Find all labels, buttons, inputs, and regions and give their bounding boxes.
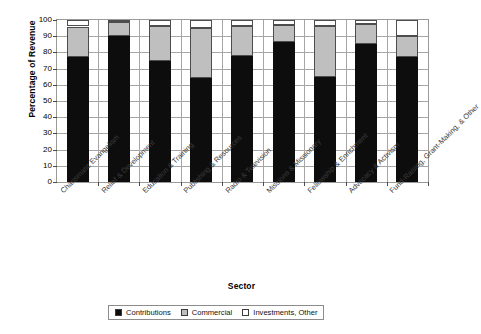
bar-segment-investments-other[interactable] — [67, 20, 89, 26]
y-axis-tick-label: 100 — [39, 16, 52, 24]
x-axis-tick-mark — [139, 182, 140, 186]
chart-legend: ContributionsCommercialInvestments, Othe… — [108, 305, 324, 320]
x-axis-tick-mark — [346, 182, 347, 186]
bar-segment-commercial[interactable] — [273, 25, 295, 42]
x-axis-tick-mark — [304, 182, 305, 186]
y-axis-tick-label: 90 — [43, 32, 52, 40]
y-axis-tick-label: 70 — [43, 65, 52, 73]
x-axis-tick-mark — [387, 182, 388, 186]
bar-segment-commercial[interactable] — [190, 28, 212, 78]
y-axis-tick-label: 60 — [43, 81, 52, 89]
bar-segment-commercial[interactable] — [149, 26, 171, 61]
bar-segment-investments-other[interactable] — [355, 20, 377, 24]
legend-item[interactable]: Investments, Other — [242, 308, 317, 317]
x-axis-title: Sector — [56, 281, 427, 291]
stacked-bar[interactable] — [273, 20, 295, 182]
legend-swatch-icon — [181, 309, 188, 316]
y-axis-title: Percentage of Revenue — [27, 0, 37, 149]
stacked-bar[interactable] — [149, 20, 171, 182]
legend-label: Investments, Other — [253, 308, 317, 317]
stacked-bar[interactable] — [355, 20, 377, 182]
stacked-bar[interactable] — [190, 20, 212, 182]
y-axis-tick-label: 20 — [43, 146, 52, 154]
x-axis-tick-mark — [181, 182, 182, 186]
x-axis-tick-mark — [222, 182, 223, 186]
y-axis-tick-label: 30 — [43, 129, 52, 137]
bar-segment-commercial[interactable] — [67, 27, 89, 58]
bar-segment-commercial[interactable] — [231, 26, 253, 56]
stacked-bar[interactable] — [314, 20, 336, 182]
y-axis-tick-label: 10 — [43, 162, 52, 170]
bar-segment-investments-other[interactable] — [396, 20, 418, 36]
bar-segment-commercial[interactable] — [314, 26, 336, 76]
stacked-bar[interactable] — [67, 20, 89, 182]
x-axis-tick-mark — [428, 182, 429, 186]
y-axis-tick-label: 0 — [48, 178, 52, 186]
y-axis-tick-mark — [53, 182, 57, 183]
legend-label: Commercial — [192, 308, 233, 317]
y-axis-tick-label: 50 — [43, 97, 52, 105]
bar-segment-commercial[interactable] — [108, 22, 130, 37]
bar-segment-investments-other[interactable] — [149, 20, 171, 26]
bar-segment-investments-other[interactable] — [314, 20, 336, 26]
y-axis-tick-label: 40 — [43, 113, 52, 121]
x-axis-tick-mark — [263, 182, 264, 186]
bar-segment-investments-other[interactable] — [273, 20, 295, 25]
x-axis-tick-mark — [98, 182, 99, 186]
bar-segment-commercial[interactable] — [396, 36, 418, 57]
legend-item[interactable]: Commercial — [181, 308, 233, 317]
legend-swatch-icon — [242, 309, 249, 316]
legend-label: Contributions — [126, 308, 171, 317]
stacked-bar[interactable] — [231, 20, 253, 182]
legend-swatch-icon — [115, 309, 122, 316]
bar-segment-commercial[interactable] — [355, 24, 377, 44]
stacked-bar[interactable] — [108, 20, 130, 182]
y-axis-tick-label: 80 — [43, 48, 52, 56]
bar-segment-investments-other[interactable] — [108, 20, 130, 22]
bar-segment-investments-other[interactable] — [190, 20, 212, 28]
stacked-bar[interactable] — [396, 20, 418, 182]
legend-item[interactable]: Contributions — [115, 308, 171, 317]
bar-segment-investments-other[interactable] — [231, 20, 253, 26]
plot-area: 1009080706050403020100 — [56, 19, 429, 183]
